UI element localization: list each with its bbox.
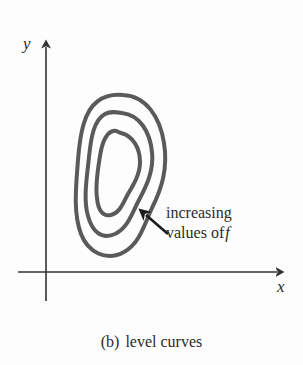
contour-curves-group	[76, 95, 166, 256]
contour-plot-canvas	[0, 0, 303, 365]
level-curves-figure: y x increasing values off (b)level curve…	[0, 0, 303, 365]
annotation-arrow	[146, 215, 168, 234]
annotation-line-2: values off	[166, 223, 298, 243]
increasing-values-annotation: increasing values off	[166, 203, 298, 243]
annotation-function-variable: f	[224, 224, 229, 241]
inner-contour	[96, 131, 140, 216]
annotation-arrow-shaft	[146, 215, 168, 234]
y-axis-label: y	[23, 35, 31, 52]
caption-tag: (b)	[101, 333, 120, 350]
axes-group	[18, 47, 277, 301]
x-axis-label: x	[277, 278, 285, 295]
figure-caption: (b)level curves	[0, 333, 303, 351]
caption-text: level curves	[125, 333, 202, 350]
annotation-line-2-prefix: values of	[166, 224, 224, 241]
annotation-line-1: increasing	[166, 203, 298, 223]
